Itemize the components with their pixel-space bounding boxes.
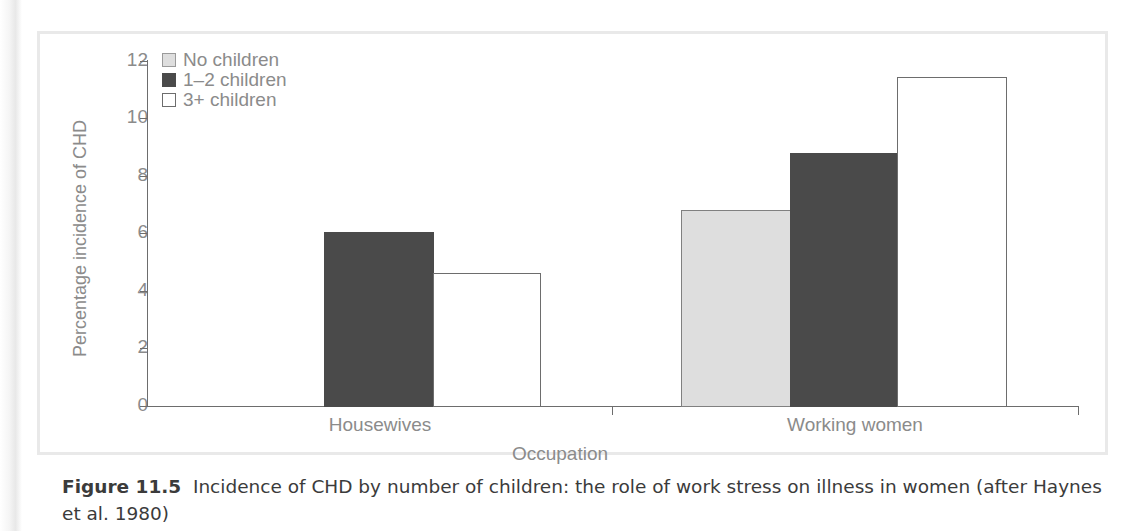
- legend-label-no-children: No children: [183, 50, 279, 69]
- x-tick-right-end: [1078, 406, 1079, 415]
- legend-item-no-children: No children: [162, 50, 287, 69]
- chart-legend: No children 1–2 children 3+ children: [162, 50, 287, 110]
- x-category-label-working-women: Working women: [760, 414, 950, 436]
- x-tick-group-separator: [612, 406, 613, 415]
- bar-working-women-3plus-children: [897, 77, 1007, 407]
- y-tick-12: 12: [60, 61, 148, 62]
- legend-label-1-2-children: 1–2 children: [183, 70, 287, 89]
- y-tick-4: 4: [60, 291, 148, 292]
- legend-swatch-3plus-children-icon: [162, 93, 176, 107]
- bar-working-women-no-children: [681, 210, 791, 407]
- y-axis-line: [147, 60, 148, 407]
- y-axis-title: Percentage incidence of CHD: [70, 99, 91, 379]
- y-tick-6: 6: [60, 233, 148, 234]
- x-axis-title: Occupation: [0, 443, 1120, 465]
- legend-swatch-no-children-icon: [162, 53, 176, 67]
- figure-caption: Figure 11.5 Incidence of CHD by number o…: [62, 474, 1102, 528]
- legend-item-3plus-children: 3+ children: [162, 90, 287, 109]
- figure-caption-label: Figure 11.5: [62, 476, 181, 497]
- figure-caption-text: Incidence of CHD by number of children: …: [62, 476, 1102, 524]
- y-tick-2: 2: [60, 348, 148, 349]
- legend-swatch-1-2-children-icon: [162, 73, 176, 87]
- bar-working-women-1-2-children: [790, 153, 898, 407]
- y-tick-0: 0: [60, 406, 148, 407]
- chart-plot-area: Percentage incidence of CHD 12 10 8 6 4 …: [0, 0, 1143, 455]
- legend-label-3plus-children: 3+ children: [183, 90, 276, 109]
- y-tick-8: 8: [60, 176, 148, 177]
- bar-housewives-3plus-children: [433, 273, 541, 407]
- y-tick-10: 10: [60, 118, 148, 119]
- bar-housewives-1-2-children: [324, 232, 434, 407]
- legend-item-1-2-children: 1–2 children: [162, 70, 287, 89]
- x-category-label-housewives: Housewives: [300, 414, 460, 436]
